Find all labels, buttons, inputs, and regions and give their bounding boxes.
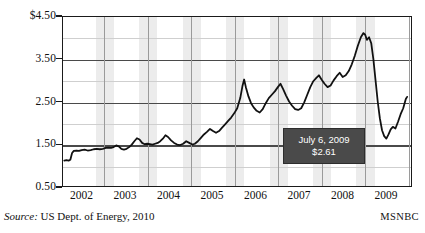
attribution: MSNBC: [380, 211, 419, 222]
x-axis-tick-label: 2003: [114, 190, 137, 202]
x-axis-tick-label: 2009: [374, 190, 397, 202]
data-point-callout: July 6, 2009 $2.61: [283, 128, 365, 164]
callout-date: July 6, 2009: [284, 134, 364, 146]
y-axis-tick-label: 1.50: [0, 138, 56, 150]
x-axis-tick-label: 2008: [331, 190, 354, 202]
source-note: Source: US Dept. of Energy, 2010: [4, 210, 155, 222]
source-label: Source:: [4, 210, 38, 222]
gasoline-price-chart: 0.501.502.503.50$4.50 200220032004200520…: [0, 0, 425, 233]
y-axis-tick-label: 0.50: [0, 181, 56, 193]
y-axis-tick-label: 3.50: [0, 53, 56, 65]
x-axis-tick-label: 2002: [70, 190, 93, 202]
x-axis: 20022003200420052006200720082009: [62, 190, 412, 208]
x-axis-tick-label: 2005: [201, 190, 224, 202]
y-axis-tick-label: 2.50: [0, 96, 56, 108]
x-axis-tick-label: 2004: [157, 190, 180, 202]
x-axis-tick-label: 2007: [287, 190, 310, 202]
y-axis-tick-label: $4.50: [0, 10, 56, 22]
callout-value: $2.61: [284, 146, 364, 158]
x-axis-tick-label: 2006: [244, 190, 267, 202]
source-text: US Dept. of Energy, 2010: [38, 210, 155, 222]
